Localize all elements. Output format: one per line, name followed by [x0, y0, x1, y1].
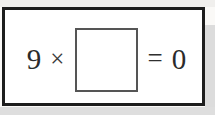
scanned-worksheet-clipping: 9 × = 0 — [0, 0, 215, 115]
product-0: 0 — [172, 45, 187, 74]
equals-sign-icon: = — [147, 45, 162, 72]
multiplicand-9: 9 — [27, 45, 42, 74]
multiplication-sign-icon: × — [50, 46, 64, 71]
problem-frame: 9 × = 0 — [2, 7, 205, 106]
page-margin-top — [0, 0, 215, 7]
equation-row: 9 × = 0 — [5, 10, 208, 109]
answer-blank-box[interactable] — [75, 28, 138, 92]
